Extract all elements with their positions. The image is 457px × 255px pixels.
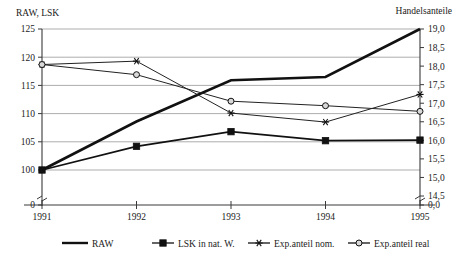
marker-circle [134, 72, 140, 78]
legend-item: RAW [62, 239, 113, 249]
right-tick-label: 15,5 [428, 154, 445, 164]
legend-item-label: LSK in nat. W. [178, 239, 235, 249]
marker-star [322, 119, 329, 125]
x-tick-label: 1991 [33, 212, 52, 222]
marker-circle [228, 98, 234, 104]
right-axis-title: Handelsanteile [396, 6, 452, 16]
left-axis-title: RAW, LSK [16, 8, 59, 18]
marker-square [39, 167, 45, 173]
right-tick-label: 16,0 [428, 136, 445, 146]
legend-item-label: Exp.anteil nom. [274, 239, 334, 249]
marker-square [228, 128, 234, 134]
marker-square [133, 143, 139, 149]
legend-item-label: RAW [92, 239, 113, 249]
chart-container: RAW, LSK Handelsanteile 1251201151101051… [0, 0, 457, 255]
x-tick-label: 1992 [127, 212, 146, 222]
marker-circle [356, 240, 362, 246]
marker-star [255, 240, 262, 246]
right-tick-label: 16,5 [428, 117, 445, 127]
marker-square [417, 137, 423, 143]
marker-square [160, 240, 166, 246]
legend-item: LSK in nat. W. [152, 239, 235, 249]
x-axis-ticks: 19911992199319941995 [33, 201, 430, 222]
series-markers [39, 128, 423, 173]
left-axis-ticks: 1251201151101051000 [21, 24, 42, 210]
left-tick-label: 105 [21, 137, 36, 147]
right-tick-label: 18,5 [428, 43, 445, 53]
legend-item-label: Exp.anteil real [374, 239, 430, 249]
chart-svg: RAW, LSK Handelsanteile 1251201151101051… [0, 0, 457, 255]
left-tick-label: 120 [21, 53, 36, 63]
right-axis-break-icon [415, 196, 425, 201]
right-tick-label: 19,0 [428, 24, 445, 34]
x-tick-label: 1994 [316, 212, 335, 222]
right-tick-label: 18,0 [428, 62, 445, 72]
left-tick-label: 125 [21, 24, 36, 34]
left-tick-label: 110 [21, 109, 35, 119]
right-tick-label: 17,5 [428, 80, 445, 90]
left-tick-label: 115 [21, 81, 35, 91]
marker-star [133, 58, 140, 64]
right-tick-label: 15,0 [428, 173, 445, 183]
right-axis-ticks: 19,018,518,017,517,016,516,015,515,014,5… [420, 24, 445, 210]
left-axis-break-icon [37, 196, 47, 201]
left-tick-label: 100 [21, 165, 36, 175]
marker-circle [323, 103, 329, 109]
series-group [38, 29, 423, 173]
right-tick-label: 17,0 [428, 99, 445, 109]
series-line [42, 132, 420, 170]
chart-legend: RAWLSK in nat. W.Exp.anteil nom.Exp.ante… [62, 239, 430, 249]
marker-circle [417, 108, 423, 114]
x-tick-label: 1993 [222, 212, 241, 222]
marker-square [322, 137, 328, 143]
legend-item: Exp.anteil nom. [248, 239, 334, 249]
marker-star [227, 110, 234, 116]
x-tick-label: 1995 [411, 212, 430, 222]
series-markers [39, 62, 423, 115]
marker-circle [39, 62, 45, 68]
legend-item: Exp.anteil real [348, 239, 430, 249]
series-markers [38, 58, 423, 125]
